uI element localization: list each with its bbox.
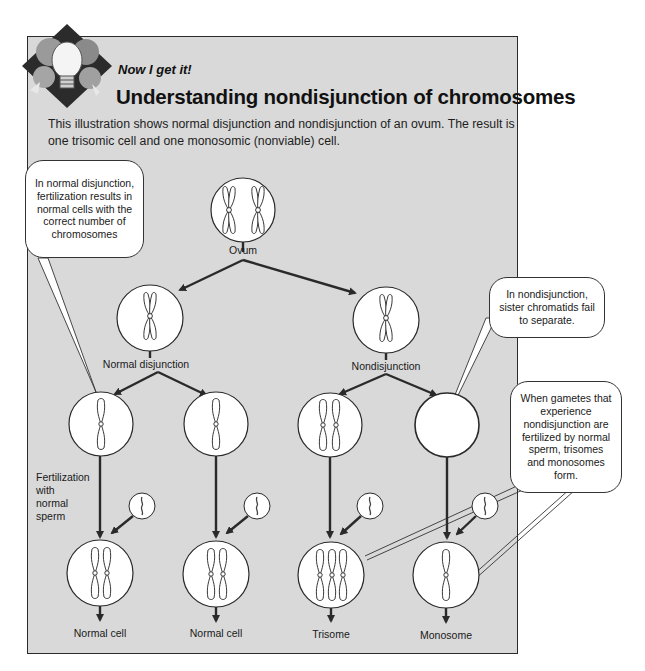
fertilization-label-line: sperm <box>36 510 90 523</box>
nondisjunction-cell <box>353 287 419 353</box>
gamete-cell-3 <box>298 393 362 457</box>
callout-nondisjunction: In nondisjunction, sister chromatids fai… <box>489 277 605 338</box>
fertilization-label: Fertilization with normal sperm <box>36 471 90 523</box>
result-label-monosome: Monosome <box>420 629 472 641</box>
fertilization-label-line: normal <box>36 497 90 510</box>
result-normal-cell-1 <box>67 540 133 606</box>
normal-disjunction-cell <box>117 285 183 351</box>
result-label-normal-1: Normal cell <box>74 627 127 639</box>
nondisjunction-label: Nondisjunction <box>352 360 421 372</box>
result-label-normal-2: Normal cell <box>190 627 243 639</box>
gamete-cell-1 <box>69 392 133 456</box>
ovum-label: Ovum <box>229 244 257 256</box>
result-monosome <box>413 542 479 608</box>
gamete-cell-4-empty <box>415 393 479 457</box>
result-label-trisome: Trisome <box>312 628 350 640</box>
fertilization-label-line: Fertilization <box>36 471 90 484</box>
normal-disjunction-label: Normal disjunction <box>103 358 189 370</box>
result-normal-cell-2 <box>183 541 249 607</box>
result-trisome <box>298 542 364 608</box>
gamete-cell-2 <box>184 392 248 456</box>
fertilization-label-line: with <box>36 484 90 497</box>
sperm-cells <box>129 493 498 519</box>
callout-normal-disjunction: In normal disjunction, fertilization res… <box>25 160 144 258</box>
ovum-cell <box>211 178 275 242</box>
callout-gametes-fertilized: When gametes that experience nondisjunct… <box>510 381 622 493</box>
